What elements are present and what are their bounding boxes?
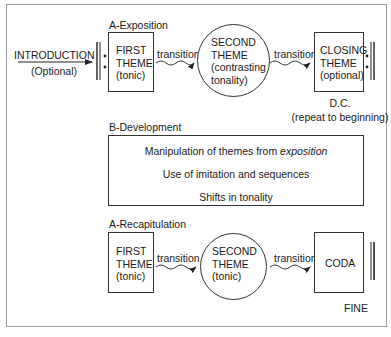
transition-label: transition bbox=[157, 48, 200, 60]
recap-first-theme-line: FIRST bbox=[116, 245, 153, 258]
first-theme-key: (tonic) bbox=[116, 69, 153, 82]
wavy-arrow-icon bbox=[156, 61, 194, 65]
first-theme-box: FIRST THEME (tonic) bbox=[108, 32, 154, 92]
recapitulation-label: A-Recapitulation bbox=[109, 218, 186, 230]
recap-second-theme-line: THEME bbox=[212, 258, 257, 271]
introduction-title: INTRODUCTION bbox=[14, 49, 94, 62]
development-item-text: Manipulation of themes from bbox=[145, 145, 280, 157]
development-item: Shifts in tonality bbox=[109, 191, 363, 203]
wavy-arrow-icon bbox=[156, 265, 196, 269]
second-theme-line: SECOND bbox=[211, 36, 266, 49]
closing-theme-line: THEME bbox=[320, 57, 367, 70]
recap-second-theme-key: (tonic) bbox=[212, 270, 257, 283]
exposition-label: A-Exposition bbox=[109, 19, 168, 31]
closing-theme-line: CLOSING bbox=[320, 44, 367, 57]
transition-label: transition bbox=[157, 252, 200, 264]
recap-first-theme-key: (tonic) bbox=[116, 270, 153, 283]
second-theme-key: (contrasting bbox=[211, 61, 266, 74]
recap-first-theme-box: FIRST THEME (tonic) bbox=[108, 232, 154, 293]
wavy-arrow-icon bbox=[270, 265, 310, 269]
introduction-note: (Optional) bbox=[14, 65, 94, 78]
development-box: Manipulation of themes from exposition U… bbox=[108, 135, 364, 206]
closing-theme-note: (optional) bbox=[320, 69, 367, 82]
wavy-arrow-icon bbox=[270, 61, 310, 65]
dc-label: D.C. bbox=[290, 97, 390, 110]
transition-label: transition bbox=[274, 252, 317, 264]
dc-note: (repeat to beginning) bbox=[290, 111, 390, 124]
development-item-emphasis: exposition bbox=[280, 145, 327, 157]
development-item: Use of imitation and sequences bbox=[109, 168, 363, 180]
coda-box: CODA bbox=[314, 232, 364, 293]
repeat-start-icon bbox=[97, 42, 106, 80]
fine-label: FINE bbox=[344, 302, 368, 314]
first-theme-line: THEME bbox=[116, 57, 153, 70]
second-theme-circle: SECOND THEME (contrasting tonality) bbox=[197, 24, 270, 97]
first-theme-line: FIRST bbox=[116, 44, 153, 57]
recap-second-theme-circle: SECOND THEME (tonic) bbox=[200, 233, 267, 300]
coda-label: CODA bbox=[325, 257, 355, 269]
introduction-label: INTRODUCTION (Optional) bbox=[14, 49, 94, 77]
development-label: B-Development bbox=[109, 121, 181, 133]
closing-theme-box: CLOSING THEME (optional) bbox=[314, 32, 364, 92]
second-theme-line: THEME bbox=[211, 49, 266, 62]
transition-label: transition bbox=[274, 48, 317, 60]
recap-first-theme-line: THEME bbox=[116, 258, 153, 271]
development-item: Manipulation of themes from exposition bbox=[109, 145, 363, 157]
dc-instruction: D.C. (repeat to beginning) bbox=[290, 97, 390, 123]
recap-second-theme-line: SECOND bbox=[212, 245, 257, 258]
second-theme-key: tonality) bbox=[211, 74, 266, 87]
final-barline-icon bbox=[371, 242, 374, 280]
